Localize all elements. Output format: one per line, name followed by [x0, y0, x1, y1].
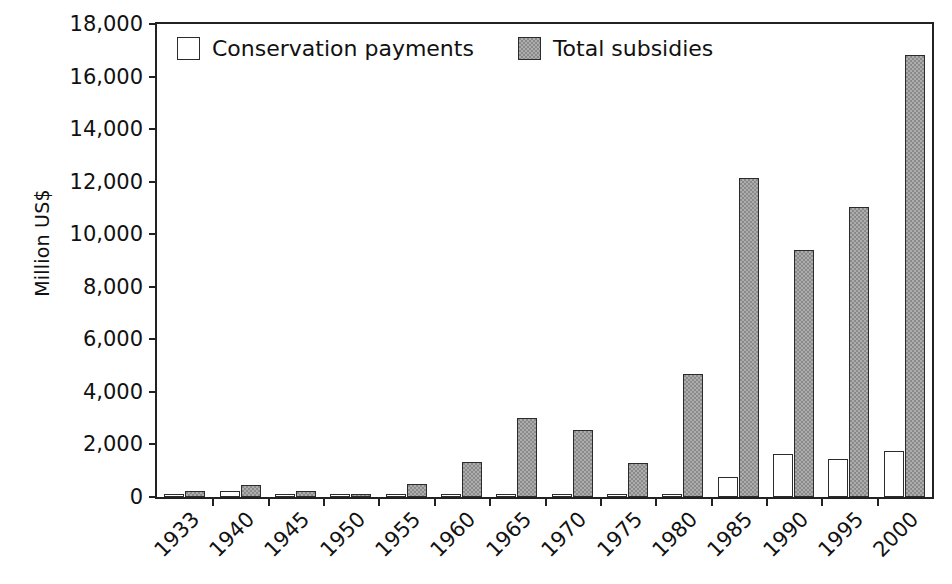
y-axis-tick-label: 8,000 [7, 276, 157, 297]
bar-conservation-payments-1933 [164, 494, 184, 497]
y-axis-tick-mark [149, 443, 157, 445]
x-axis-tick-label-1950: 1950 [315, 507, 370, 562]
bar-total-subsidies-1960 [462, 462, 482, 497]
x-axis-tick-label-1960: 1960 [426, 507, 481, 562]
y-axis-tick-mark [149, 286, 157, 288]
bar-group-1965 [489, 24, 544, 497]
y-axis-tick-label: 12,000 [7, 171, 157, 192]
bar-group-1980 [655, 24, 710, 497]
y-axis-tick-mark [149, 233, 157, 235]
bar-conservation-payments-1985 [718, 477, 738, 497]
legend-item-total-subsidies: Total subsidies [518, 36, 713, 61]
bar-conservation-payments-1940 [220, 491, 240, 497]
x-axis-tick-label-1965: 1965 [481, 507, 536, 562]
bar-chart: Million US$ 02,0004,0006,0008,00010,0001… [0, 0, 952, 584]
bar-total-subsidies-1995 [849, 207, 869, 497]
bar-conservation-payments-1995 [828, 459, 848, 497]
bar-conservation-payments-2000 [884, 451, 904, 497]
bar-total-subsidies-1965 [517, 418, 537, 497]
bar-series-container [157, 24, 932, 497]
bar-conservation-payments-1950 [330, 494, 350, 497]
bar-conservation-payments-1975 [607, 494, 627, 497]
x-axis-tick-label-2000: 2000 [869, 507, 924, 562]
x-axis-tick-label-1975: 1975 [592, 507, 647, 562]
x-axis-tick-cell: 1965 [487, 503, 542, 583]
bar-total-subsidies-1940 [241, 485, 261, 497]
bar-conservation-payments-1990 [773, 454, 793, 497]
x-axis-tick-label-1955: 1955 [371, 507, 426, 562]
bar-group-1990 [766, 24, 821, 497]
plot-area: 02,0004,0006,0008,00010,00012,00014,0001… [155, 22, 934, 499]
legend-label-total-subsidies: Total subsidies [553, 36, 713, 61]
bar-total-subsidies-2000 [905, 55, 925, 497]
y-axis-tick-label: 14,000 [7, 119, 157, 140]
bar-group-1940 [212, 24, 267, 497]
bar-group-1970 [545, 24, 600, 497]
bar-group-1960 [434, 24, 489, 497]
y-axis-tick-mark [149, 128, 157, 130]
bar-conservation-payments-1955 [386, 494, 406, 497]
y-axis-tick-label: 4,000 [7, 381, 157, 402]
x-axis-tick-cell: 1945 [266, 503, 321, 583]
bar-conservation-payments-1960 [441, 494, 461, 497]
x-axis-tick-cell: 1985 [709, 503, 764, 583]
bar-total-subsidies-1950 [351, 494, 371, 497]
bar-total-subsidies-1945 [296, 491, 316, 497]
x-axis-tick-cell: 1975 [598, 503, 653, 583]
bar-group-1950 [323, 24, 378, 497]
bar-group-2000 [877, 24, 932, 497]
y-axis-tick-mark [149, 391, 157, 393]
bar-group-1945 [268, 24, 323, 497]
bar-group-1975 [600, 24, 655, 497]
x-axis-tick-label-1980: 1980 [647, 507, 702, 562]
x-axis-tick-cell: 1955 [376, 503, 431, 583]
x-axis-tick-label-1970: 1970 [537, 507, 592, 562]
bar-conservation-payments-1970 [552, 494, 572, 497]
x-axis-tick-label-1990: 1990 [758, 507, 813, 562]
legend-swatch-total-subsidies-icon [518, 37, 541, 60]
x-axis-tick-cell: 1933 [155, 503, 210, 583]
legend-item-conservation-payments: Conservation payments [177, 36, 474, 61]
bar-group-1955 [378, 24, 433, 497]
x-axis-tick-label-1995: 1995 [813, 507, 868, 562]
x-axis-tick-cell: 1960 [432, 503, 487, 583]
bar-group-1985 [711, 24, 766, 497]
bar-total-subsidies-1955 [407, 484, 427, 497]
y-axis-tick-mark [149, 76, 157, 78]
y-axis-tick-label: 0 [7, 487, 157, 508]
x-axis-tick-cell: 1950 [321, 503, 376, 583]
x-axis-tick-label-1940: 1940 [205, 507, 260, 562]
y-axis-tick-label: 16,000 [7, 66, 157, 87]
bar-total-subsidies-1933 [185, 491, 205, 497]
chart-legend: Conservation payments Total subsidies [171, 34, 719, 63]
x-axis-tick-cell: 1995 [819, 503, 874, 583]
bar-total-subsidies-1970 [573, 430, 593, 497]
bar-total-subsidies-1975 [628, 463, 648, 497]
x-axis-tick-cell: 1940 [210, 503, 265, 583]
y-axis-tick-label: 6,000 [7, 329, 157, 350]
bar-conservation-payments-1965 [496, 494, 516, 497]
y-axis-tick-mark [149, 496, 157, 498]
x-axis-tick-label-1945: 1945 [260, 507, 315, 562]
bar-group-1933 [157, 24, 212, 497]
y-axis-tick-label: 18,000 [7, 14, 157, 35]
x-axis-tick-cell: 1980 [653, 503, 708, 583]
x-axis-tick-cell: 2000 [875, 503, 930, 583]
bar-total-subsidies-1990 [794, 250, 814, 497]
bar-total-subsidies-1980 [683, 374, 703, 497]
legend-swatch-conservation-payments-icon [177, 37, 200, 60]
y-axis-tick-mark [149, 181, 157, 183]
y-axis-tick-mark [149, 23, 157, 25]
bar-conservation-payments-1980 [662, 494, 682, 497]
x-axis-tick-label-1985: 1985 [703, 507, 758, 562]
y-axis-tick-label: 10,000 [7, 224, 157, 245]
y-axis-tick-mark [149, 338, 157, 340]
x-axis-tick-labels: 1933194019451950195519601965197019751980… [155, 503, 930, 583]
bar-group-1995 [821, 24, 876, 497]
x-axis-tick-cell: 1970 [543, 503, 598, 583]
x-axis-tick-cell: 1990 [764, 503, 819, 583]
legend-label-conservation-payments: Conservation payments [212, 36, 474, 61]
y-axis-tick-label: 2,000 [7, 434, 157, 455]
x-axis-tick-label-1933: 1933 [149, 507, 204, 562]
bar-conservation-payments-1945 [275, 494, 295, 497]
